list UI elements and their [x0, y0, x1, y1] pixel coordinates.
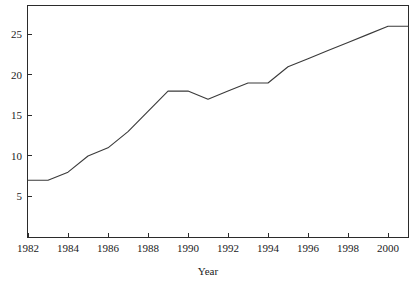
x-tick-label-2000: 2000 — [377, 242, 400, 254]
x-tick-label-1984: 1984 — [57, 242, 80, 254]
x-tick-label-1992: 1992 — [217, 242, 239, 254]
x-tick-label-1988: 1988 — [137, 242, 160, 254]
x-tick-label-1998: 1998 — [337, 242, 360, 254]
line-chart: 510152025 198219841986198819901992199419… — [0, 0, 416, 288]
x-tick-label-1994: 1994 — [257, 242, 280, 254]
y-tick-label-10: 10 — [11, 150, 23, 162]
x-tick-label-1982: 1982 — [17, 242, 39, 254]
x-tick-label-1990: 1990 — [177, 242, 200, 254]
y-tick-label-15: 15 — [11, 109, 23, 121]
y-tick-label-20: 20 — [11, 69, 23, 81]
y-tick-label-25: 25 — [11, 28, 23, 40]
x-tick-label-1996: 1996 — [297, 242, 320, 254]
x-axis-title: Year — [198, 265, 219, 277]
chart-canvas: 510152025 198219841986198819901992199419… — [0, 0, 416, 288]
y-tick-label-5: 5 — [17, 190, 23, 202]
x-tick-label-1986: 1986 — [97, 242, 120, 254]
